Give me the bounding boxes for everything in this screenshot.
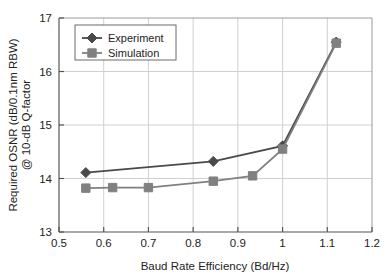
x-axis-title: Baud Rate Efficiency (Bd/Hz) [141, 260, 290, 272]
data-point [278, 145, 286, 153]
legend-marker-square-icon [88, 49, 96, 57]
x-tick-label: 0.9 [230, 237, 246, 249]
data-point [82, 184, 90, 192]
x-tick-label: 1.1 [319, 237, 335, 249]
x-tick-label: 0.6 [96, 237, 112, 249]
chart-figure: 0.50.60.70.80.911.11.2 1314151617 Baud R… [0, 0, 392, 280]
data-point [332, 39, 340, 47]
x-tick-label: 1 [279, 237, 285, 249]
legend-item-simulation[interactable]: Simulation [82, 47, 159, 59]
legend-label: Simulation [108, 47, 159, 59]
y-tick-label: 13 [39, 226, 52, 238]
y-tick-label: 14 [39, 173, 52, 185]
chart-svg: 0.50.60.70.80.911.11.2 1314151617 Baud R… [0, 0, 392, 280]
y-tick-label: 17 [39, 12, 52, 24]
chart-legend: ExperimentSimulation [75, 25, 176, 60]
x-tick-label: 0.7 [140, 237, 156, 249]
y-tick-label: 15 [39, 119, 52, 131]
y-axis-title-line2: @ 10-dB Q-factor [20, 80, 32, 170]
x-tick-label: 1.2 [364, 237, 380, 249]
data-point [144, 183, 152, 191]
x-tick-label: 0.8 [185, 237, 201, 249]
data-point [209, 177, 217, 185]
x-tick-label: 0.5 [51, 237, 67, 249]
data-point [108, 183, 116, 191]
data-point [248, 172, 256, 180]
y-axis-title-line1: Required OSNR (dB/0.1nm RBW) [7, 38, 19, 211]
y-tick-label: 16 [39, 66, 52, 78]
legend-label: Experiment [108, 32, 164, 44]
